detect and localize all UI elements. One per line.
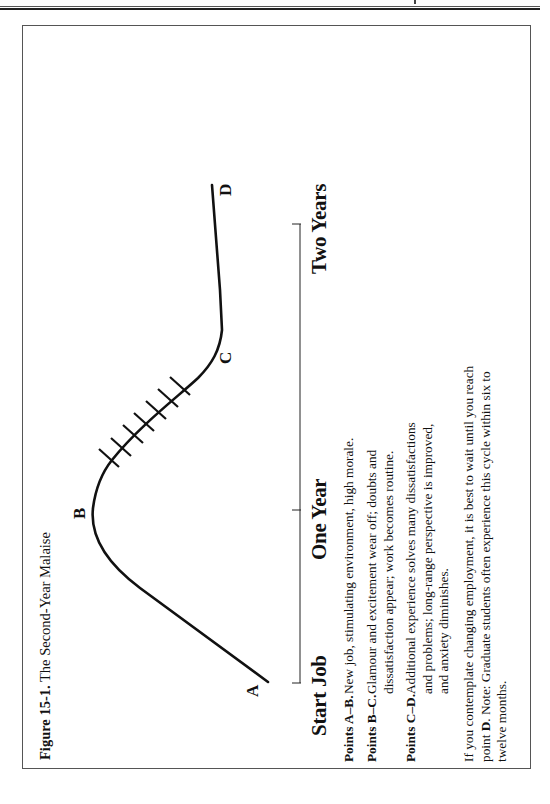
description-a-b: Points A–B.New job, stimulating environm… — [341, 404, 358, 762]
point-label-b: B — [70, 508, 90, 519]
figure-note: If you contemplate changing employment, … — [461, 362, 511, 762]
axis-label-two-years: Two Years — [307, 184, 332, 274]
description-text: New job, stimulating environment, high m… — [341, 404, 358, 694]
description-key: Points B–C. — [364, 694, 381, 762]
figure-title: Figure 15-1. The Second-Year Malaise — [37, 532, 54, 760]
axis-label-start-job: Start Job — [307, 655, 332, 736]
figure-title-text: The Second-Year Malaise — [37, 532, 53, 682]
description-text: Additional experience solves many dissat… — [403, 404, 453, 694]
time-axis — [292, 224, 301, 683]
description-c-d: Points C–D.Additional experience solves … — [403, 404, 453, 762]
description-key: Points A–B. — [341, 694, 358, 762]
note-text-end: . Note: Graduate students often experien… — [478, 371, 510, 762]
morale-curve — [93, 185, 268, 682]
figure-number: Figure 15-1. — [37, 685, 53, 760]
point-label-a: A — [243, 685, 263, 697]
description-text: Glamour and excitement wear off; doubts … — [364, 404, 397, 694]
description-key: Points C–D. — [403, 694, 420, 762]
note-bold-point: D — [478, 722, 493, 732]
point-label-d: D — [216, 184, 236, 196]
axis-label-one-year: One Year — [307, 479, 332, 560]
description-b-c: Points B–C.Glamour and excitement wear o… — [364, 404, 397, 762]
point-label-c: C — [216, 352, 236, 364]
hatch-marks — [99, 377, 190, 467]
